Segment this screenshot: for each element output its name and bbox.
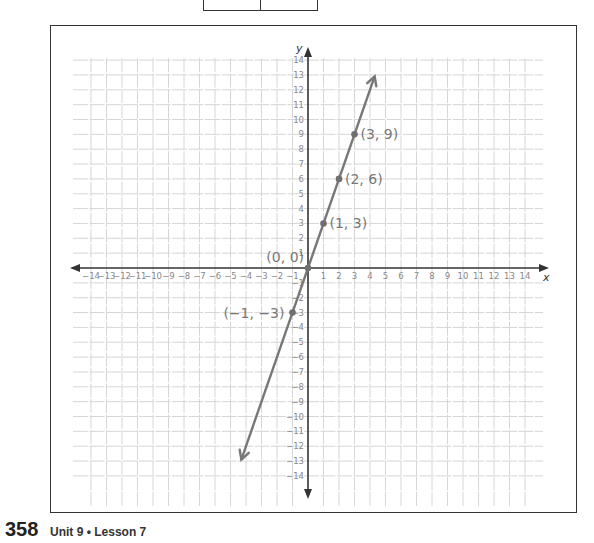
data-point xyxy=(336,176,343,183)
data-point xyxy=(305,265,312,272)
y-tick-label: −12 xyxy=(286,441,304,451)
y-tick-label: −14 xyxy=(286,471,304,481)
y-tick-label: 8 xyxy=(299,144,304,154)
x-tick-label: 2 xyxy=(336,271,341,281)
x-tick-label: 12 xyxy=(489,271,500,281)
y-tick-label: 4 xyxy=(299,204,304,214)
data-point-label: (3, 9) xyxy=(361,126,399,142)
x-tick-label: −3 xyxy=(255,271,268,281)
x-tick-label: 10 xyxy=(458,271,469,281)
y-tick-label: 13 xyxy=(293,70,304,80)
y-tick-label: 3 xyxy=(299,218,304,228)
x-tick-label: 4 xyxy=(367,271,372,281)
x-tick-label: 11 xyxy=(473,271,484,281)
y-tick-label: 10 xyxy=(293,115,304,125)
y-tick-label: −10 xyxy=(286,412,304,422)
data-point-label: (2, 6) xyxy=(345,171,383,187)
y-tick-label: 2 xyxy=(299,233,304,243)
x-tick-label: 7 xyxy=(414,271,419,281)
x-tick-label: −10 xyxy=(144,271,162,281)
data-point-label: (1, 3) xyxy=(330,215,368,231)
y-tick-label: −11 xyxy=(286,426,304,436)
y-axis-top-arrow-icon xyxy=(304,47,312,57)
x-tick-label: −5 xyxy=(224,271,237,281)
x-tick-label: 3 xyxy=(352,271,357,281)
x-tick-label: −8 xyxy=(178,271,191,281)
x-tick-label: 6 xyxy=(398,271,403,281)
y-tick-label: −8 xyxy=(291,382,304,392)
y-axis-label: y xyxy=(295,42,303,55)
data-point xyxy=(289,309,296,316)
y-tick-label: 14 xyxy=(293,55,304,65)
page-number: 358 xyxy=(5,518,38,541)
x-axis-left-arrow-icon xyxy=(70,264,80,272)
data-point-label: (0, 0) xyxy=(266,249,304,265)
x-tick-label: 1 xyxy=(321,271,326,281)
y-tick-label: −5 xyxy=(291,337,304,347)
y-tick-label: 12 xyxy=(293,85,304,95)
y-tick-label: −9 xyxy=(291,397,304,407)
x-tick-label: 13 xyxy=(504,271,515,281)
x-tick-label: −6 xyxy=(209,271,222,281)
y-tick-label: 9 xyxy=(299,129,304,139)
y-tick-label: 11 xyxy=(293,100,304,110)
x-tick-label: −4 xyxy=(240,271,253,281)
y-tick-label: −13 xyxy=(286,456,304,466)
x-tick-label: −9 xyxy=(162,271,175,281)
x-axis-label: x xyxy=(542,271,550,284)
x-tick-label: −2 xyxy=(271,271,284,281)
x-tick-label: −7 xyxy=(193,271,206,281)
x-tick-label: 14 xyxy=(520,271,531,281)
data-point xyxy=(351,131,358,138)
x-tick-label: 9 xyxy=(445,271,450,281)
coordinate-plane: −14−13−12−11−10−9−8−7−6−5−4−3−2−11234567… xyxy=(0,0,594,543)
data-point xyxy=(320,220,327,227)
y-tick-label: −6 xyxy=(291,352,304,362)
lesson-label: Unit 9 • Lesson 7 xyxy=(50,525,146,539)
y-tick-label: 6 xyxy=(299,174,304,184)
x-tick-label: 8 xyxy=(429,271,434,281)
x-tick-label: 5 xyxy=(383,271,388,281)
data-point-label: (−1, −3) xyxy=(223,305,284,321)
y-tick-label: −4 xyxy=(291,322,304,332)
y-axis-bottom-arrow-icon xyxy=(304,489,312,499)
y-tick-label: 5 xyxy=(299,189,304,199)
y-tick-label: −7 xyxy=(291,367,304,377)
y-tick-label: 7 xyxy=(299,159,304,169)
